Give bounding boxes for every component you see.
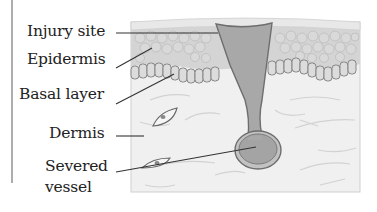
skin-wound-diagram: Injury site Epidermis Basal layer Dermis… xyxy=(0,0,377,212)
label-injury-site: Injury site xyxy=(27,24,105,40)
label-vessel: vessel xyxy=(45,180,92,196)
label-epidermis: Epidermis xyxy=(27,52,106,68)
label-basal-layer: Basal layer xyxy=(19,87,104,103)
label-dermis: Dermis xyxy=(49,126,104,142)
label-severed: Severed xyxy=(45,159,108,175)
